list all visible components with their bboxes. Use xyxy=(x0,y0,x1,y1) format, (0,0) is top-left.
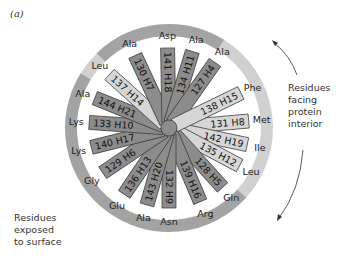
note-line: protein xyxy=(288,106,330,118)
amino-acid-label: Leu xyxy=(243,166,260,177)
amino-acid-label: Glu xyxy=(109,200,125,211)
note-line: exposed xyxy=(14,224,62,236)
arrow-down-icon xyxy=(279,150,303,218)
note-line: Residues xyxy=(288,82,330,94)
amino-acid-label: Asp xyxy=(159,30,176,41)
amino-acid-label: Lys xyxy=(69,116,84,127)
amino-acid-label: Asn xyxy=(160,216,177,227)
amino-acid-label: Ala xyxy=(189,34,204,45)
residue-position-label: 132 H9 xyxy=(164,170,175,204)
amino-acid-label: Ala xyxy=(122,38,137,49)
direction-arrows xyxy=(272,40,303,221)
note-line: facing xyxy=(288,94,330,106)
residue-position-label: 130 H7 xyxy=(132,57,156,93)
amino-acid-label: Phe xyxy=(244,82,262,93)
amino-acid-label: Ile xyxy=(254,142,265,153)
note-line: to surface xyxy=(14,236,62,248)
surface-note: Residues exposed to surface xyxy=(14,212,62,248)
arrow-up-icon xyxy=(273,42,297,75)
note-line: Residues xyxy=(14,212,62,224)
amino-acid-label: Ala xyxy=(75,88,90,99)
amino-acid-label: Ala xyxy=(215,46,230,57)
amino-acid-label: Ala xyxy=(136,212,151,223)
amino-acid-label: Lys xyxy=(71,145,86,156)
interior-note: Residues facing protein interior xyxy=(288,82,330,130)
note-line: interior xyxy=(288,118,330,130)
amino-acid-label: Met xyxy=(253,114,271,125)
residue-position-label: 141 H18 xyxy=(162,52,174,93)
amino-acid-label: Leu xyxy=(91,60,108,71)
amino-acid-label: Arg xyxy=(197,208,213,219)
amino-acid-label: Gln xyxy=(223,192,239,203)
wheel-hub xyxy=(161,120,177,136)
amino-acid-label: Gly xyxy=(84,175,100,186)
